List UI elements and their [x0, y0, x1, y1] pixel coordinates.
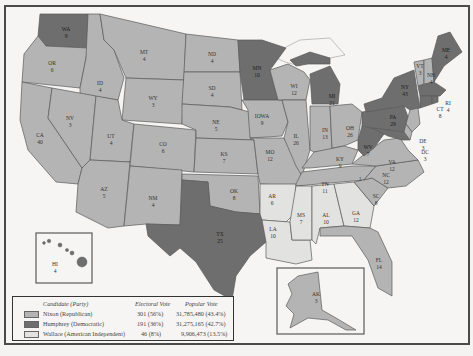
svg-text:CT: CT — [436, 106, 444, 112]
legend-electoral-vote: 191 (36%) — [137, 319, 163, 328]
svg-text:MS: MS — [297, 212, 305, 218]
svg-text:NE: NE — [212, 119, 220, 125]
svg-text:8: 8 — [375, 200, 378, 206]
svg-text:12: 12 — [389, 166, 395, 172]
svg-text:6: 6 — [162, 148, 165, 154]
svg-text:29: 29 — [390, 121, 396, 127]
svg-text:9: 9 — [339, 163, 342, 169]
svg-text:AZ: AZ — [100, 186, 108, 192]
svg-text:25: 25 — [217, 238, 223, 244]
legend-popular-vote: 31,785,480 (43.4%) — [176, 309, 226, 318]
svg-text:IN: IN — [322, 127, 328, 133]
svg-text:NY: NY — [401, 84, 409, 90]
svg-text:MT: MT — [140, 49, 149, 55]
svg-text:4: 4 — [447, 107, 450, 113]
legend-row-nixon: Nixon (Republican) 301 (56%) 31,785,480 … — [13, 309, 233, 318]
svg-text:NV: NV — [66, 115, 74, 121]
svg-text:12: 12 — [267, 156, 273, 162]
svg-text:AR: AR — [268, 193, 276, 199]
state-mi[interactable] — [310, 66, 340, 104]
legend-electoral-vote: 46 (8%) — [141, 329, 161, 338]
svg-text:43: 43 — [402, 91, 408, 97]
svg-text:4: 4 — [152, 202, 155, 208]
svg-text:11: 11 — [322, 188, 328, 194]
legend-header-electoral: Electoral Vote — [135, 299, 170, 308]
legend-candidate-name: Humphrey (Democratic) — [43, 319, 104, 328]
legend-candidate-name: Nixon (Republican) — [43, 309, 92, 318]
legend: Candidate (Party) Electoral Vote Popular… — [12, 296, 234, 341]
svg-text:10: 10 — [323, 219, 329, 225]
svg-text:MI: MI — [329, 93, 336, 99]
svg-text:4: 4 — [445, 54, 448, 60]
svg-text:NM: NM — [149, 195, 158, 201]
svg-text:9: 9 — [65, 33, 68, 39]
svg-text:DE: DE — [419, 138, 427, 144]
svg-text:LA: LA — [269, 226, 276, 232]
legend-header: Candidate (Party) Electoral Vote Popular… — [13, 299, 233, 308]
svg-text:7: 7 — [223, 158, 226, 164]
legend-header-popular: Popular Vote — [185, 299, 217, 308]
svg-text:NC: NC — [382, 172, 390, 178]
wallace-swatch — [24, 331, 39, 338]
svg-text:3: 3 — [69, 122, 72, 128]
svg-text:13: 13 — [322, 134, 328, 140]
svg-text:DC: DC — [421, 149, 429, 155]
svg-text:6: 6 — [51, 67, 54, 73]
svg-text:4: 4 — [143, 56, 146, 62]
svg-text:IOWA: IOWA — [255, 113, 269, 119]
svg-text:14: 14 — [376, 264, 382, 270]
svg-text:GA: GA — [352, 210, 360, 216]
svg-text:26: 26 — [293, 140, 299, 146]
svg-text:1: 1 — [359, 176, 362, 182]
svg-text:SD: SD — [208, 85, 215, 91]
svg-text:HI: HI — [52, 261, 58, 267]
svg-text:CO: CO — [159, 141, 167, 147]
svg-text:SC: SC — [373, 193, 380, 199]
state-wy[interactable] — [122, 78, 184, 124]
svg-text:PA: PA — [390, 114, 397, 120]
state-in[interactable] — [310, 106, 332, 152]
svg-text:26: 26 — [347, 132, 353, 138]
svg-text:WV: WV — [363, 144, 372, 150]
svg-text:12: 12 — [383, 179, 389, 185]
svg-text:KS: KS — [220, 151, 227, 157]
svg-text:3: 3 — [419, 70, 422, 76]
svg-text:MN: MN — [253, 65, 262, 71]
svg-text:12: 12 — [353, 217, 359, 223]
humphrey-swatch — [24, 321, 39, 328]
svg-text:OR: OR — [48, 60, 56, 66]
svg-text:9: 9 — [261, 120, 264, 126]
svg-text:4: 4 — [110, 140, 113, 146]
svg-text:TX: TX — [216, 231, 223, 237]
svg-text:TN: TN — [321, 181, 328, 187]
svg-text:ND: ND — [208, 51, 216, 57]
svg-text:3: 3 — [152, 102, 155, 108]
svg-text:21: 21 — [329, 100, 335, 106]
legend-candidate-name: Wallace (American Independent) — [43, 329, 125, 338]
svg-text:VT: VT — [416, 63, 424, 69]
svg-text:6: 6 — [271, 200, 274, 206]
legend-popular-vote: 9,906,473 (13.5%) — [181, 329, 227, 338]
svg-text:FL: FL — [376, 257, 383, 263]
svg-text:3: 3 — [424, 156, 427, 162]
svg-text:NH: NH — [427, 72, 435, 78]
svg-text:3: 3 — [315, 298, 318, 304]
svg-text:5: 5 — [215, 126, 218, 132]
nixon-swatch — [24, 311, 39, 318]
svg-text:AK: AK — [312, 291, 320, 297]
svg-text:WA: WA — [62, 26, 71, 32]
svg-text:OK: OK — [230, 188, 238, 194]
svg-text:AL: AL — [322, 212, 330, 218]
svg-text:KY: KY — [336, 156, 344, 162]
state-ri[interactable] — [432, 96, 438, 104]
legend-electoral-vote: 301 (56%) — [137, 309, 163, 318]
svg-text:MO: MO — [266, 149, 275, 155]
legend-popular-vote: 31,275,165 (42.7%) — [176, 319, 226, 328]
svg-text:OH: OH — [346, 125, 354, 131]
state-ct[interactable] — [420, 96, 432, 108]
svg-text:7: 7 — [300, 219, 303, 225]
svg-text:12: 12 — [291, 90, 297, 96]
state-ny[interactable] — [364, 70, 420, 112]
svg-text:ME: ME — [442, 47, 451, 53]
svg-text:4: 4 — [211, 92, 214, 98]
